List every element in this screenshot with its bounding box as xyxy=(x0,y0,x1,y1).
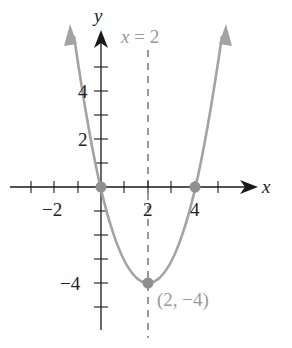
x-intercept-origin-point xyxy=(96,182,107,193)
x-intercept-4-point xyxy=(190,182,201,193)
symmetry-label: x = 2 xyxy=(120,26,159,47)
parabola-graph: y x x = 2 −2 2 4 4 2 −4 (2, −4) xyxy=(0,0,292,348)
tick-label-y-neg4: −4 xyxy=(60,273,81,294)
x-axis-label: x xyxy=(261,176,271,197)
vertex-point xyxy=(143,278,154,289)
y-axis xyxy=(94,30,108,330)
tick-label-y-2: 2 xyxy=(78,129,88,150)
tick-label-y-4: 4 xyxy=(78,81,88,102)
tick-label-x-2: 2 xyxy=(143,199,153,220)
curve-right-arrow-icon xyxy=(219,24,232,46)
tick-label-x-neg2: −2 xyxy=(42,199,62,220)
tick-label-x-4: 4 xyxy=(190,199,200,220)
y-axis-label: y xyxy=(92,5,103,26)
curve-left-arrow-icon xyxy=(64,24,77,46)
x-axis xyxy=(10,180,258,194)
vertex-label: (2, −4) xyxy=(157,289,209,311)
